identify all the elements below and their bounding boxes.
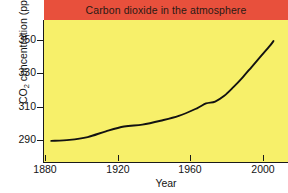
x-tick-label-2000: 2000 xyxy=(243,164,283,175)
y-axis-line xyxy=(43,20,44,163)
x-tick-2000 xyxy=(263,155,264,161)
co2-trend-line xyxy=(51,41,273,141)
x-tick-label-1960: 1960 xyxy=(170,164,210,175)
y-axis-title-wrap: CO2 concentration (ppm) xyxy=(16,0,30,126)
x-axis-title: Year xyxy=(44,177,288,189)
x-tick-label-1880: 1880 xyxy=(25,164,65,175)
x-tick-1960 xyxy=(190,155,191,161)
y-axis-title: CO2 concentration (ppm) xyxy=(17,0,29,104)
y-tick-350 xyxy=(37,40,43,41)
chart-title-banner: Carbon dioxide in the atmosphere xyxy=(44,0,288,20)
y-tick-330 xyxy=(37,73,43,74)
data-line-svg xyxy=(44,20,288,162)
plot-area xyxy=(44,20,288,162)
x-tick-1880 xyxy=(45,155,46,161)
y-axis-title-suffix: concentration (ppm) xyxy=(17,0,29,84)
y-tick-290 xyxy=(37,140,43,141)
y-axis-title-subscript: 2 xyxy=(22,84,31,88)
co2-chart-figure: Carbon dioxide in the atmosphere 350 330… xyxy=(0,0,288,193)
x-tick-label-1920: 1920 xyxy=(98,164,138,175)
x-tick-1920 xyxy=(118,155,119,161)
y-tick-310 xyxy=(37,107,43,108)
chart-title: Carbon dioxide in the atmosphere xyxy=(86,4,247,16)
y-tick-label-290: 290 xyxy=(4,134,36,145)
y-axis-title-prefix: CO xyxy=(17,88,29,104)
